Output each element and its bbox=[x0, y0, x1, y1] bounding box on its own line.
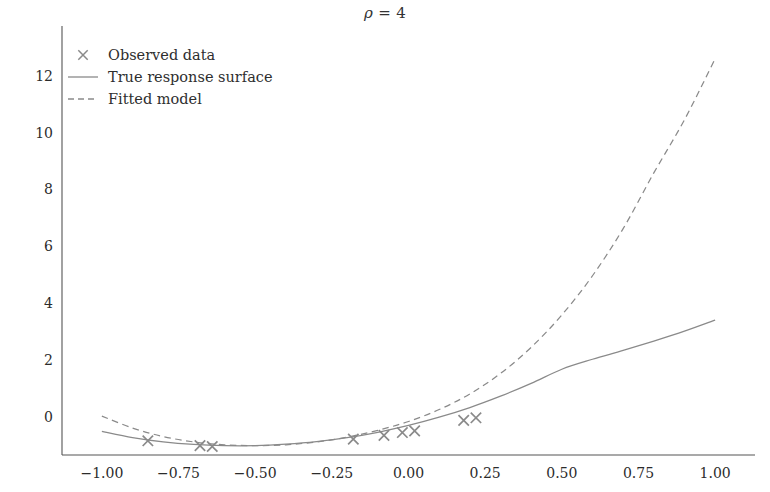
y-tick-label: 8 bbox=[44, 181, 53, 197]
x-tick-label: −0.50 bbox=[234, 465, 277, 481]
x-tick-label: 0.50 bbox=[546, 465, 577, 481]
legend-label-observed-data: Observed data bbox=[106, 47, 215, 63]
observed-data-marker bbox=[471, 413, 481, 423]
y-tick-label: 4 bbox=[44, 295, 53, 311]
x-tick-label: −0.75 bbox=[157, 465, 200, 481]
x-tick-label: 0.75 bbox=[623, 465, 654, 481]
y-tick-label: 6 bbox=[44, 238, 53, 254]
observed-data-marker bbox=[409, 426, 419, 436]
legend-label-true-response-surface: True response surface bbox=[106, 69, 273, 85]
x-tick-label: −1.00 bbox=[80, 465, 123, 481]
x-tick-label: 0.00 bbox=[393, 465, 424, 481]
chart-figure: ρ = 4 024681012−1.00−0.75−0.50−0.250.000… bbox=[0, 0, 770, 492]
fitted-model-line bbox=[102, 59, 715, 446]
legend-entry-fitted-model: Fitted model bbox=[60, 88, 273, 110]
y-tick-label: 0 bbox=[44, 409, 53, 425]
observed-data-marker bbox=[397, 427, 407, 437]
x-tick-label: −0.25 bbox=[310, 465, 353, 481]
y-tick-label: 2 bbox=[44, 352, 53, 368]
y-tick-label: 12 bbox=[35, 68, 53, 84]
observed-data-marker bbox=[458, 415, 468, 425]
line-solid-icon bbox=[60, 72, 106, 82]
observed-data-marker bbox=[195, 440, 205, 450]
line-dashed-icon bbox=[60, 94, 106, 104]
true-response-surface-line bbox=[102, 320, 715, 446]
x-tick-label: 0.25 bbox=[470, 465, 501, 481]
observed-data-marker bbox=[379, 430, 389, 440]
legend-entry-true-response-surface: True response surface bbox=[60, 66, 273, 88]
chart-legend: Observed data True response surface Fitt… bbox=[60, 44, 273, 110]
legend-label-fitted-model: Fitted model bbox=[106, 91, 202, 107]
x-tick-label: 1.00 bbox=[700, 465, 731, 481]
observed-data-marker bbox=[207, 441, 217, 451]
marker-x-icon bbox=[60, 47, 106, 63]
y-tick-label: 10 bbox=[35, 125, 53, 141]
legend-entry-observed-data: Observed data bbox=[60, 44, 273, 66]
